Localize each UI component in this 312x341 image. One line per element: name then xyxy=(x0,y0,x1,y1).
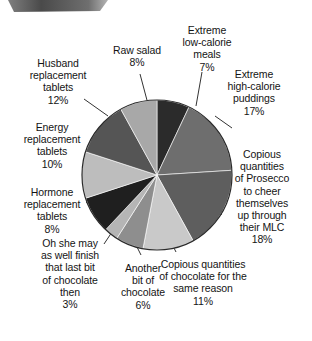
leader-line-raw-salad xyxy=(140,74,148,104)
leader-line-low-calorie xyxy=(196,72,202,106)
slice-label-extreme-low-calorie-meals: Extreme low-calorie meals 7% xyxy=(170,24,244,73)
slice-label-husband-replacement-tablets: Husband replacement tablets 12% xyxy=(14,57,102,106)
slice-label-raw-salad: Raw salad 8% xyxy=(106,44,168,68)
pie-slices-group xyxy=(82,100,232,250)
pie-chart: Extreme low-calorie meals 7% Extreme hig… xyxy=(0,0,312,341)
slice-label-oh-she-may-as-well: Oh she may as well finish that last bit … xyxy=(30,237,110,310)
leader-line-high-calorie xyxy=(215,116,232,128)
slice-label-energy-replacement-tablets: Energy replacement tablets 10% xyxy=(8,121,96,170)
slice-label-hormone-replacement-tablets: Hormone replacement tablets 8% xyxy=(8,186,96,235)
slice-label-copious-prosecco: Copious quantities of Prosecco to cheer … xyxy=(224,148,300,246)
slice-label-another-bit-of-chocolate: Another bit of chocolate 6% xyxy=(113,262,173,311)
slice-label-extreme-high-calorie-puddings: Extreme high-calorie puddings 17% xyxy=(214,68,294,117)
